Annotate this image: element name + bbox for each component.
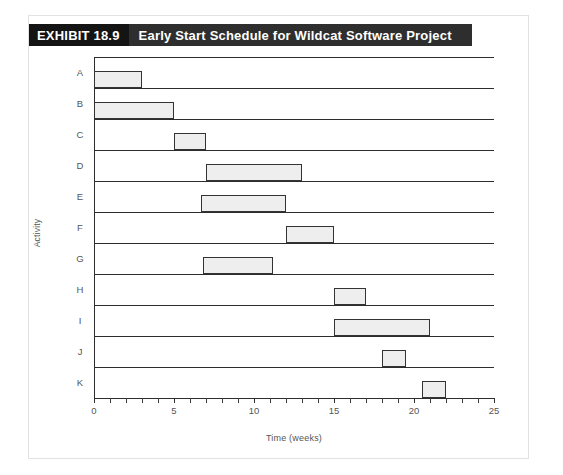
- y-tick-label-E: E: [72, 191, 88, 202]
- row-separator-K: [94, 398, 494, 399]
- y-tick-label-C: C: [72, 129, 88, 140]
- row-separator-E: [94, 212, 494, 213]
- gantt-bar-K: [422, 381, 446, 398]
- row-separator-I: [94, 336, 494, 337]
- row-separator-D: [94, 181, 494, 182]
- x-axis-title: Time (weeks): [94, 433, 494, 443]
- row-separator-H: [94, 305, 494, 306]
- x-tick-label-5: 5: [159, 405, 189, 416]
- x-minor-tick-6: [190, 398, 191, 403]
- x-major-tick-0: [94, 398, 95, 403]
- gantt-bar-J: [382, 350, 406, 367]
- gantt-bar-B: [94, 102, 174, 119]
- gantt-bar-D: [206, 164, 302, 181]
- y-tick-label-A: A: [72, 67, 88, 78]
- x-minor-tick-11: [270, 398, 271, 403]
- x-minor-tick-7: [206, 398, 207, 403]
- row-separator-C: [94, 150, 494, 151]
- row-separator-F: [94, 243, 494, 244]
- y-tick-label-G: G: [72, 253, 88, 264]
- row-separator-A: [94, 88, 494, 89]
- y-tick-label-F: F: [72, 222, 88, 233]
- x-minor-tick-23: [462, 398, 463, 403]
- x-minor-tick-16: [350, 398, 351, 403]
- x-minor-tick-3: [142, 398, 143, 403]
- plot-top-rule: [94, 57, 494, 58]
- y-tick-label-B: B: [72, 98, 88, 109]
- row-separator-J: [94, 367, 494, 368]
- x-minor-tick-18: [382, 398, 383, 403]
- y-axis-title: Activity: [32, 193, 42, 273]
- y-tick-label-K: K: [72, 377, 88, 388]
- gantt-chart: Activity Time (weeks) ABCDEFGHIJK 051015…: [0, 0, 563, 475]
- gantt-bar-E: [201, 195, 286, 212]
- x-minor-tick-14: [318, 398, 319, 403]
- x-major-tick-25: [494, 398, 495, 403]
- gantt-bar-C: [174, 133, 206, 150]
- x-tick-label-15: 15: [319, 405, 349, 416]
- x-major-tick-5: [174, 398, 175, 403]
- x-minor-tick-22: [446, 398, 447, 403]
- y-tick-label-I: I: [72, 315, 88, 326]
- x-minor-tick-17: [366, 398, 367, 403]
- x-tick-label-0: 0: [79, 405, 109, 416]
- x-minor-tick-4: [158, 398, 159, 403]
- y-tick-label-D: D: [72, 160, 88, 171]
- x-tick-label-20: 20: [399, 405, 429, 416]
- x-minor-tick-9: [238, 398, 239, 403]
- x-minor-tick-8: [222, 398, 223, 403]
- gantt-bar-F: [286, 226, 334, 243]
- x-major-tick-20: [414, 398, 415, 403]
- row-separator-B: [94, 119, 494, 120]
- y-tick-label-J: J: [72, 346, 88, 357]
- x-minor-tick-2: [126, 398, 127, 403]
- x-minor-tick-19: [398, 398, 399, 403]
- gantt-bar-H: [334, 288, 366, 305]
- x-major-tick-15: [334, 398, 335, 403]
- x-minor-tick-13: [302, 398, 303, 403]
- gantt-bar-A: [94, 71, 142, 88]
- x-major-tick-10: [254, 398, 255, 403]
- y-tick-label-H: H: [72, 284, 88, 295]
- x-minor-tick-1: [110, 398, 111, 403]
- x-tick-label-10: 10: [239, 405, 269, 416]
- x-minor-tick-21: [430, 398, 431, 403]
- row-separator-G: [94, 274, 494, 275]
- x-minor-tick-12: [286, 398, 287, 403]
- x-minor-tick-24: [478, 398, 479, 403]
- gantt-bar-I: [334, 319, 430, 336]
- gantt-bar-G: [203, 257, 273, 274]
- exhibit-page: EXHIBIT 18.9 Early Start Schedule for Wi…: [0, 0, 563, 475]
- x-tick-label-25: 25: [479, 405, 509, 416]
